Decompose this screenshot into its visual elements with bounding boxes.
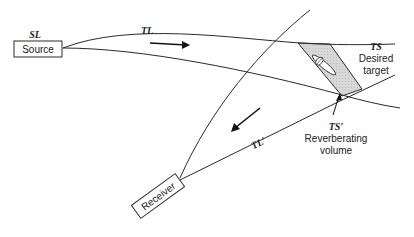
- desired-target-line1: Desired: [359, 53, 393, 64]
- receiver-beam-right: [180, 75, 395, 180]
- source-level-label: SL: [29, 29, 41, 40]
- sonar-geometry-diagram: Source SL TL TS Desired target TS′ Rever…: [0, 0, 414, 237]
- desired-target-code: TS: [370, 41, 382, 52]
- desired-target-line2: target: [363, 65, 389, 76]
- outgoing-arrow-icon: [150, 41, 190, 49]
- reverberating-line2: volume: [320, 145, 353, 156]
- receiver-node: Receiver: [131, 174, 184, 219]
- beam-upper-boundary: [63, 34, 395, 48]
- reverberating-code: TS′: [329, 121, 344, 132]
- return-arrow-icon: [231, 108, 260, 132]
- reverberating-line1: Reverberating: [305, 133, 368, 144]
- return-transmission-loss-label: TL′: [249, 134, 268, 151]
- transmission-loss-label: TL: [141, 25, 153, 36]
- source-label: Source: [22, 44, 54, 55]
- source-node: Source: [14, 41, 62, 57]
